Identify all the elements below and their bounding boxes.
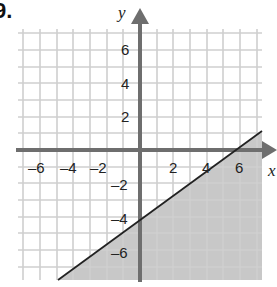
x-tick-label: 6 (235, 159, 243, 176)
x-tick-label: 4 (202, 159, 210, 176)
y-tick-label: 2 (121, 108, 129, 125)
x-axis-label: x (267, 161, 276, 180)
y-tick-label: –2 (111, 176, 128, 193)
y-tick-label: –4 (111, 210, 128, 227)
y-tick-label: 6 (121, 41, 129, 58)
y-axis-label: y (116, 3, 126, 22)
y-axis-arrow-icon (131, 8, 149, 24)
coordinate-graph: y x –6 –4 –2 2 4 6 6 4 2 –2 –4 –6 (0, 0, 277, 287)
x-tick-label: –4 (60, 159, 77, 176)
x-tick-label: –2 (90, 159, 107, 176)
x-tick-label: –6 (28, 159, 45, 176)
y-tick-label: –6 (111, 244, 128, 261)
x-tick-label: 2 (169, 159, 177, 176)
x-axis-arrow-icon (262, 141, 277, 159)
y-tick-label: 4 (121, 75, 129, 92)
